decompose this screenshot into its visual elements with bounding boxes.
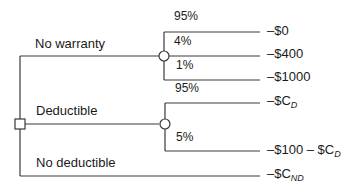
payoff-subscript: ND xyxy=(291,173,304,183)
payoff-main: –$C xyxy=(267,93,291,108)
payoff-label: –$1000 xyxy=(267,70,310,84)
probability-label: 95% xyxy=(174,10,198,23)
branch-label-no-deductible: No deductible xyxy=(36,156,116,170)
payoff-label: –$CND xyxy=(267,167,304,181)
probability-label: 4% xyxy=(174,35,191,48)
probability-label: 5% xyxy=(176,131,193,144)
payoff-main: –$100 – $C xyxy=(267,142,334,157)
payoff-label: –$100 – $CD xyxy=(267,143,341,157)
payoff-subscript: D xyxy=(334,149,341,159)
payoff-label: –$CD xyxy=(267,94,297,108)
probability-label: 95% xyxy=(175,82,199,95)
chance-node-deductible xyxy=(160,119,170,129)
payoff-main: –$C xyxy=(267,166,291,181)
branch-label-no-warranty: No warranty xyxy=(35,37,105,51)
decision-node-square xyxy=(15,119,25,129)
payoff-subscript: D xyxy=(291,100,298,110)
payoff-label: –$400 xyxy=(267,47,303,61)
branch-label-deductible: Deductible xyxy=(36,104,97,118)
chance-node-no-warranty xyxy=(159,51,169,61)
probability-label: 1% xyxy=(176,59,193,72)
payoff-label: –$0 xyxy=(267,24,289,38)
